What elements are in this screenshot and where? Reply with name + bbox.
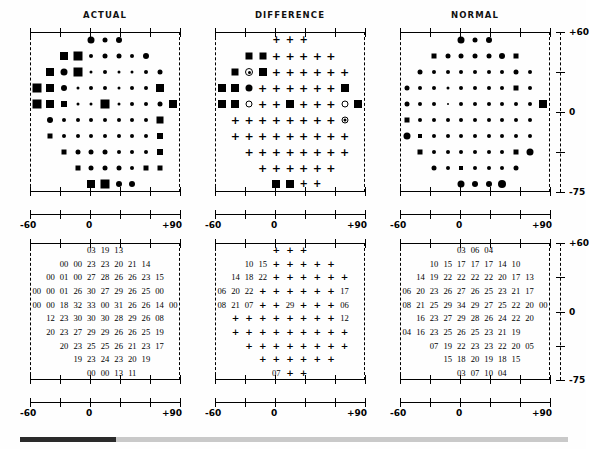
frame-tick bbox=[150, 375, 151, 384]
x-axis-tick bbox=[550, 210, 551, 219]
marker-dot bbox=[89, 134, 93, 138]
number-cell: 17 bbox=[457, 259, 466, 269]
marker-plus bbox=[231, 115, 240, 126]
marker-dot bbox=[130, 86, 134, 90]
number-cell: 01 bbox=[60, 272, 69, 282]
marker-sq bbox=[32, 84, 41, 93]
marker-dot bbox=[157, 70, 162, 75]
y-axis-tick bbox=[556, 152, 565, 153]
marker-dot bbox=[500, 70, 504, 74]
marker-sq bbox=[513, 150, 518, 155]
number-cell: 27 bbox=[484, 300, 493, 310]
marker-dot bbox=[487, 150, 491, 154]
number-cell: 10 bbox=[512, 259, 521, 269]
number-cell: + bbox=[313, 300, 321, 310]
number-cell: 23 bbox=[142, 341, 151, 351]
number-plot-normal: 0306041015171717141014192222222220171306… bbox=[400, 243, 550, 380]
number-cell: + bbox=[259, 300, 267, 310]
number-cell: 20 bbox=[114, 259, 123, 269]
frame-tick bbox=[245, 28, 246, 37]
marker-plus bbox=[285, 51, 294, 62]
number-cell: + bbox=[327, 272, 335, 282]
frame-tick bbox=[245, 187, 246, 196]
number-cell: 26 bbox=[73, 286, 82, 296]
number-cell: 17 bbox=[340, 286, 349, 296]
number-cell: 23 bbox=[142, 272, 151, 282]
frame-tick bbox=[490, 187, 491, 196]
frame-tick bbox=[430, 28, 431, 37]
marker-dot bbox=[514, 134, 518, 138]
frame-tick bbox=[60, 187, 61, 196]
number-cell: + bbox=[232, 313, 240, 323]
number-cell: 23 bbox=[471, 341, 480, 351]
number-cell: + bbox=[313, 327, 321, 337]
marker-plus bbox=[272, 67, 281, 78]
marker-plus bbox=[313, 163, 322, 174]
number-cell: 03 bbox=[457, 245, 466, 255]
symbol-plot-normal bbox=[400, 32, 550, 192]
number-cell: + bbox=[341, 341, 349, 351]
number-cell: 00 bbox=[46, 286, 55, 296]
marker-dot bbox=[500, 102, 504, 106]
marker-dot bbox=[90, 103, 93, 106]
marker-sq bbox=[218, 100, 226, 108]
number-cell: 00 bbox=[101, 300, 110, 310]
symbol-plot-difference bbox=[215, 32, 365, 192]
x-axis-label-actual-1: 0 bbox=[86, 220, 92, 230]
x-axis-label-lower-normal-2: +90 bbox=[532, 408, 552, 418]
number-cell: + bbox=[286, 354, 294, 364]
number-cell: 19 bbox=[73, 354, 82, 364]
number-cell: + bbox=[273, 313, 281, 323]
number-cell: 25 bbox=[498, 300, 507, 310]
marker-dot bbox=[130, 54, 134, 58]
marker-sq bbox=[101, 100, 110, 109]
number-cell: + bbox=[341, 272, 349, 282]
number-cell: 19 bbox=[155, 327, 164, 337]
marker-sq bbox=[46, 100, 54, 108]
marker-plus bbox=[272, 147, 281, 158]
marker-sq bbox=[232, 69, 239, 76]
marker-dot bbox=[487, 118, 491, 122]
marker-plus bbox=[231, 131, 240, 142]
frame-left-dashed bbox=[400, 32, 401, 192]
frame-left-dashed bbox=[30, 32, 31, 192]
number-cell: 15 bbox=[443, 259, 452, 269]
marker-plus bbox=[299, 115, 308, 126]
y-axis-label-upper-0: +60 bbox=[569, 27, 589, 37]
marker-dot bbox=[117, 71, 120, 74]
number-cell: 14 bbox=[416, 272, 425, 282]
frame-tick bbox=[490, 28, 491, 37]
x-axis-tick bbox=[30, 210, 31, 219]
scrollbar-thumb[interactable] bbox=[20, 437, 116, 442]
marker-dot bbox=[89, 150, 94, 155]
marker-plus bbox=[313, 147, 322, 158]
frame-tick bbox=[400, 375, 401, 384]
marker-sq bbox=[73, 68, 82, 77]
marker-dot bbox=[117, 118, 121, 122]
x-axis-tick bbox=[120, 398, 121, 407]
frame-tick bbox=[150, 187, 151, 196]
x-axis-upper-actual bbox=[30, 214, 180, 215]
marker-dot bbox=[404, 86, 409, 91]
number-cell: + bbox=[327, 259, 335, 269]
marker-plus bbox=[299, 99, 308, 110]
x-axis-label-difference-0: -60 bbox=[205, 220, 221, 230]
marker-sq bbox=[259, 53, 266, 60]
marker-sq bbox=[62, 150, 67, 155]
x-axis-tick bbox=[550, 398, 551, 407]
frame-tick bbox=[30, 239, 31, 248]
marker-plus bbox=[258, 163, 267, 174]
marker-plus bbox=[299, 163, 308, 174]
marker-plus bbox=[258, 147, 267, 158]
number-plot-actual: 0319130000232320211400010027282626231500… bbox=[30, 243, 180, 380]
horizontal-scrollbar[interactable] bbox=[20, 437, 568, 442]
number-cell: + bbox=[341, 327, 349, 337]
number-cell: 33 bbox=[87, 300, 96, 310]
marker-plus bbox=[326, 163, 335, 174]
number-cell: 08 bbox=[218, 300, 227, 310]
marker-dot bbox=[129, 181, 135, 187]
marker-sq bbox=[286, 180, 294, 188]
frame-tick bbox=[430, 187, 431, 196]
number-cell: 29 bbox=[457, 313, 466, 323]
number-cell: 28 bbox=[471, 313, 480, 323]
